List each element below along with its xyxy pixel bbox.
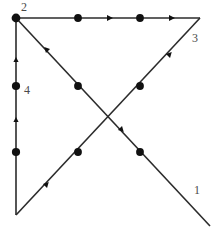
node-top-mid-left[interactable] <box>74 14 82 22</box>
vertex-label-1: 1 <box>194 184 200 196</box>
arrow-up-icon-left-lower <box>13 117 18 122</box>
node-nwse-upper[interactable] <box>74 82 82 90</box>
arrow-up-icon-left-upper <box>13 57 18 62</box>
node-left-upper[interactable] <box>12 82 20 90</box>
vertex-label-4: 4 <box>24 84 30 96</box>
vertex-label-2: 2 <box>21 1 27 13</box>
graph-figure <box>0 0 213 227</box>
node-top-mid-right[interactable] <box>136 14 144 22</box>
node-top-left-vertex[interactable] <box>12 14 21 23</box>
arrow-right-icon-top-2 <box>169 15 175 21</box>
node-left-lower[interactable] <box>12 148 20 156</box>
node-nwse-lower[interactable] <box>136 148 144 156</box>
arrow-right-icon-top-1 <box>107 15 113 21</box>
node-swne-lower[interactable] <box>74 148 82 156</box>
arrow-downright-icon-nwse-lower <box>118 126 126 134</box>
node-swne-upper[interactable] <box>136 82 144 90</box>
vertex-label-3: 3 <box>192 32 198 44</box>
diagram-canvas: 1 2 3 4 <box>0 0 213 227</box>
